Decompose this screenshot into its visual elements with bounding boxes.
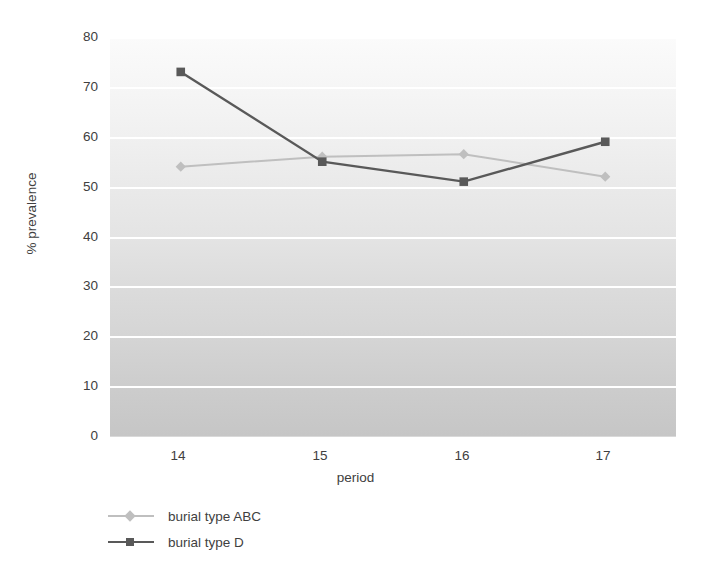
series-d xyxy=(176,68,609,186)
legend-item-burial-type-abc[interactable]: burial type ABC xyxy=(108,503,261,529)
x-axis-title: period xyxy=(0,470,711,485)
y-tick-label: 70 xyxy=(58,80,98,94)
diamond-marker-icon xyxy=(600,172,610,182)
diamond-marker-icon xyxy=(176,162,186,172)
legend-item-burial-type-d[interactable]: burial type D xyxy=(108,529,261,555)
y-tick-label: 60 xyxy=(58,130,98,144)
y-tick-label: 10 xyxy=(58,379,98,393)
series-plot xyxy=(110,37,676,436)
series-abc xyxy=(176,149,611,182)
y-tick-label: 40 xyxy=(58,230,98,244)
y-axis-title: % prevalence xyxy=(24,154,39,274)
plot-area xyxy=(110,37,676,436)
legend-label: burial type D xyxy=(168,535,244,550)
diamond-marker-icon xyxy=(459,149,469,159)
square-marker-icon xyxy=(459,177,468,186)
series-line xyxy=(181,154,606,176)
x-tick-label: 17 xyxy=(573,449,633,463)
x-tick-label: 15 xyxy=(290,449,350,463)
square-marker-icon xyxy=(318,157,327,166)
square-marker-icon xyxy=(176,68,185,77)
y-tick-label: 80 xyxy=(58,30,98,44)
line-chart: 80 70 60 50 40 30 20 10 0 14 15 16 17 pe… xyxy=(0,0,711,579)
series-line xyxy=(181,72,606,182)
legend: burial type ABC burial type D xyxy=(108,503,261,555)
legend-label: burial type ABC xyxy=(168,509,261,524)
x-axis-line xyxy=(110,436,676,437)
square-marker-icon xyxy=(601,137,610,146)
y-tick-label: 50 xyxy=(58,180,98,194)
legend-key-abc xyxy=(108,509,154,523)
y-tick-label: 0 xyxy=(58,429,98,443)
x-tick-label: 14 xyxy=(148,449,208,463)
diamond-marker-icon xyxy=(124,510,135,521)
legend-key-d xyxy=(108,535,154,549)
x-tick-label: 16 xyxy=(432,449,492,463)
y-tick-label: 30 xyxy=(58,279,98,293)
square-marker-icon xyxy=(126,538,134,546)
y-tick-label: 20 xyxy=(58,329,98,343)
